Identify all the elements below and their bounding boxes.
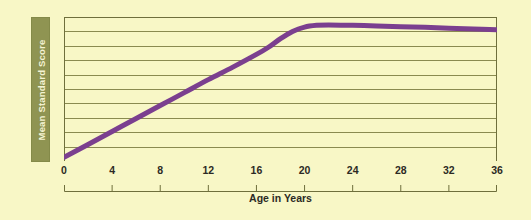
data-series-group: [64, 25, 497, 157]
plot-svg: [64, 17, 497, 161]
x-tick-label: 24: [347, 164, 359, 176]
y-axis-title-box: Mean Standard Score: [31, 17, 50, 162]
x-tick-label: 32: [443, 164, 455, 176]
x-tick-label: 16: [251, 164, 263, 176]
x-tick-label: 8: [157, 164, 163, 176]
chart-figure: Mean Standard Score 04812162024283236 Ag…: [0, 0, 531, 220]
x-axis-title: Age in Years: [64, 192, 497, 204]
x-tick-label: 20: [299, 164, 311, 176]
x-tick-label: 28: [395, 164, 407, 176]
x-tick-label: 4: [109, 164, 115, 176]
x-tick-label: 12: [202, 164, 214, 176]
x-tick-label: 36: [491, 164, 503, 176]
data-line: [64, 25, 497, 157]
x-axis-ruler: [64, 179, 497, 187]
gridlines-group: [64, 32, 497, 148]
x-axis-tick-labels: 04812162024283236: [64, 164, 497, 180]
x-tick-label: 0: [61, 164, 67, 176]
plot-area: [64, 17, 497, 161]
y-axis-title: Mean Standard Score: [35, 39, 46, 140]
